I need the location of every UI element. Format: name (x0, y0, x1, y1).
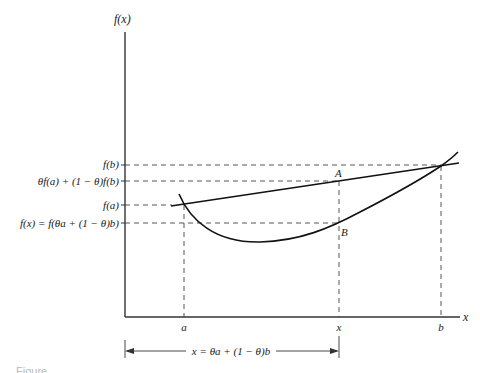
label-a: a (181, 321, 187, 333)
x-axis-label: x (462, 310, 469, 324)
label-b: b (438, 321, 444, 333)
label-x: x (336, 321, 342, 333)
convex-function-diagram: f(x) x f(b) θf(a) + (1 − θ)f(b) f(a) f(x… (0, 0, 480, 373)
point-A-label: A (334, 167, 342, 179)
point-B-label: B (341, 226, 348, 238)
arrow-left-icon (125, 348, 134, 354)
convex-curve (179, 152, 458, 242)
label-f-b: f(b) (103, 158, 119, 171)
y-axis-label: f(x) (114, 12, 131, 26)
arrow-right-icon (330, 348, 339, 354)
dimension-label: x = θa + (1 − θ)b (191, 345, 271, 358)
label-chord-value: θf(a) + (1 − θ)f(b) (38, 175, 120, 188)
label-f-x: f(x) = f(θa + (1 − θ)b) (20, 217, 119, 230)
label-f-a: f(a) (103, 199, 119, 212)
chord-line (171, 163, 459, 206)
figure-caption: Figure (16, 366, 47, 373)
